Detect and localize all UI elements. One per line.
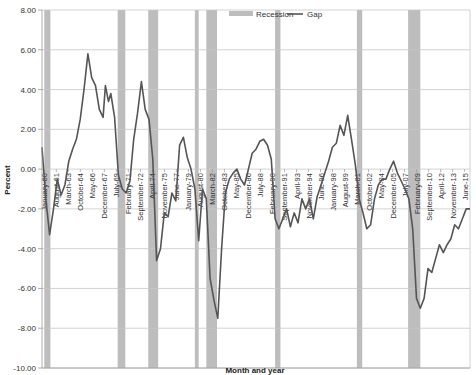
x-tick-label: April-12 — [437, 173, 446, 199]
legend: Recession Gap — [229, 10, 323, 19]
y-tick-label: 4.00 — [20, 86, 36, 95]
x-tick-label: July-88 — [256, 173, 265, 197]
x-tick-label: April-93 — [293, 173, 302, 199]
x-tick-label: May-66 — [88, 173, 97, 198]
y-tick-label: -2.00 — [18, 205, 37, 214]
y-tick-label: 6.00 — [20, 46, 36, 55]
x-tick-label: August-99 — [341, 173, 350, 207]
chart: 8.006.004.002.000.00-2.00-4.00-6.00-8.00… — [0, 0, 476, 375]
y-tick-label: 0.00 — [20, 165, 36, 174]
x-tick-label: November-75 — [160, 173, 169, 218]
x-axis-title: Month and year — [225, 366, 284, 375]
y-axis-title: Percent — [3, 165, 12, 195]
x-tick-label: March-82 — [208, 173, 217, 205]
x-tick-label: December-05 — [389, 173, 398, 218]
legend-recession-swatch — [229, 11, 253, 16]
x-tick-label: September-72 — [136, 173, 145, 221]
legend-gap-label: Gap — [307, 10, 323, 19]
x-tick-label: January-79 — [184, 173, 193, 211]
x-tick-label: July-07 — [401, 173, 410, 197]
x-axis-labels: January-60August-61March-63October-64May… — [40, 169, 469, 221]
x-tick-label: February-09 — [413, 173, 422, 214]
x-tick-label: July-69 — [112, 173, 121, 197]
x-tick-label: January-98 — [329, 173, 338, 211]
x-tick-label: June-15 — [461, 173, 470, 200]
y-tick-label: -8.00 — [18, 324, 37, 333]
y-tick-label: 2.00 — [20, 125, 36, 134]
y-tick-label: -4.00 — [18, 245, 37, 254]
x-tick-label: September-10 — [425, 173, 434, 221]
y-axis-ticks: 8.006.004.002.000.00-2.00-4.00-6.00-8.00… — [13, 6, 36, 373]
y-tick-label: -10.00 — [13, 364, 36, 373]
y-tick-label: -6.00 — [18, 284, 37, 293]
x-tick-label: November-13 — [449, 173, 458, 218]
x-tick-label: October-64 — [76, 173, 85, 211]
x-tick-label: December-67 — [100, 173, 109, 218]
y-tick-label: 8.00 — [20, 6, 36, 15]
x-tick-label: October-02 — [365, 173, 374, 211]
